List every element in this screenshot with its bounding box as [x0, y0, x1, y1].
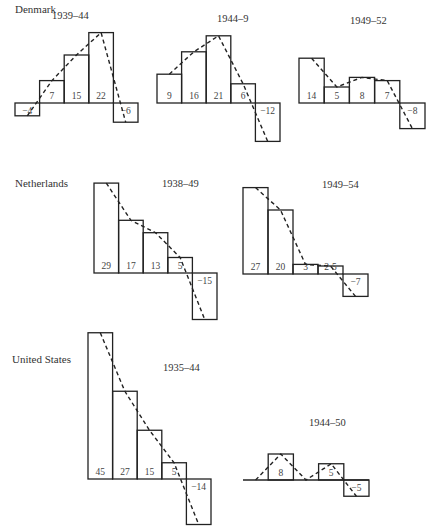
bar-value-label: 7	[385, 91, 390, 101]
chart-united-states-1944-50: 1944–5085−5	[243, 417, 369, 496]
bar-value-label: 13	[151, 261, 161, 271]
chart-denmark-1944-9: 1944–9916216−12	[157, 13, 280, 141]
trend-line	[256, 454, 357, 496]
bar-value-label: 15	[145, 467, 155, 477]
chart-period-title: 1949–52	[350, 15, 387, 26]
chart-period-title: 1949–54	[322, 179, 360, 190]
bar-value-label: −7	[350, 277, 360, 287]
bar-value-label: 17	[126, 261, 136, 271]
bar-value-label: 6	[241, 91, 246, 101]
chart-denmark-1939-44: 1939–44−471522−6	[15, 10, 138, 122]
bar-value-label: 5	[329, 468, 334, 478]
bar-value-label: 29	[102, 261, 112, 271]
bar-value-label: −12	[260, 106, 275, 116]
bar-value-label: 5	[334, 91, 339, 101]
trend-line	[256, 188, 356, 297]
chart-netherlands-1938-49: 1938–492917135−15	[94, 178, 217, 320]
bar-value-label: 21	[214, 91, 224, 101]
bar-value-label: 7	[50, 91, 55, 101]
bar-value-label: 45	[96, 467, 106, 477]
bar-value-label: 20	[276, 262, 286, 272]
bar-value-label: −5	[351, 483, 361, 493]
bar-value-label: 9	[167, 91, 172, 101]
bar-value-label: 22	[96, 91, 106, 101]
chart-denmark-1949-52: 1949–5214587−8	[299, 15, 425, 129]
trend-line	[106, 183, 204, 319]
chart-period-title: 1944–9	[217, 13, 249, 24]
bar-value-label: 27	[120, 467, 130, 477]
bar-charts-canvas: 1939–44−471522−61944–9916216−121949–5214…	[0, 0, 429, 532]
chart-period-title: 1938–49	[162, 178, 199, 189]
bar-value-label: −14	[191, 482, 206, 492]
chart-period-title: 1944–50	[309, 417, 346, 428]
bar-value-label: 8	[278, 468, 283, 478]
bar-value-label: 27	[251, 262, 261, 272]
bar-value-label: 8	[360, 91, 365, 101]
bar-value-label: −8	[407, 106, 417, 116]
chart-united-states-1935-44: 1935–444527155−14	[88, 333, 211, 525]
trend-line	[27, 33, 125, 123]
bar-value-label: 14	[307, 91, 317, 101]
chart-period-title: 1935–44	[163, 362, 201, 373]
bar-value-label: 16	[189, 91, 199, 101]
bar-value-label: −15	[197, 276, 212, 286]
chart-netherlands-1949-54: 1949–54272032·5−7	[243, 179, 368, 296]
bar-value-label: 15	[72, 91, 82, 101]
chart-period-title: 1939–44	[52, 10, 90, 21]
